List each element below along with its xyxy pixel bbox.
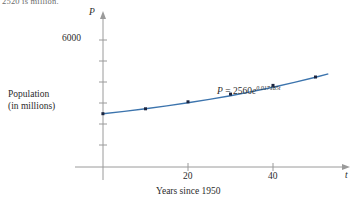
x-tick-label-40: 40 bbox=[268, 171, 278, 181]
data-point bbox=[144, 107, 147, 110]
x-axis-variable-label: t bbox=[345, 170, 348, 180]
data-points bbox=[101, 76, 317, 116]
y-axis-title-line-2: (in millions) bbox=[8, 100, 55, 112]
equation-operator: = 2560 bbox=[223, 86, 252, 96]
x-axis-title: Years since 1950 bbox=[156, 186, 220, 196]
model-curve bbox=[103, 74, 328, 114]
data-point bbox=[187, 100, 190, 103]
population-growth-figure: 2520 is million. bbox=[0, 0, 359, 207]
data-point bbox=[314, 76, 317, 79]
data-point bbox=[101, 112, 104, 115]
y-tick-label-6000: 6000 bbox=[62, 33, 81, 43]
y-axis-variable-label: P bbox=[89, 7, 95, 17]
y-axis-title-line-1: Population bbox=[8, 88, 55, 100]
y-axis-title: Population (in millions) bbox=[8, 88, 55, 112]
curve-equation-annotation: P = 2560e0.017185t bbox=[217, 85, 280, 96]
x-tick-label-20: 20 bbox=[183, 171, 193, 181]
equation-exponent: 0.017185t bbox=[256, 85, 280, 91]
y-axis-arrow-icon bbox=[100, 11, 106, 19]
